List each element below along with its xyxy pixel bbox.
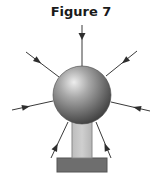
field-line-left [12, 101, 53, 110]
field-line-lower-right [96, 122, 111, 158]
field-line-upper-left [26, 52, 59, 77]
arrowhead-down-icon [79, 33, 86, 40]
charged-sphere [53, 66, 111, 124]
field-line-lower-left [51, 122, 68, 158]
stand-base [57, 158, 107, 172]
charged-sphere-diagram [0, 0, 162, 182]
arrowhead-icon [132, 104, 141, 112]
field-line-upper-right [106, 51, 137, 76]
arrowhead-icon [52, 142, 61, 152]
arrowhead-icon [21, 103, 30, 111]
arrowhead-icon [102, 142, 111, 152]
field-line-right [111, 102, 150, 111]
